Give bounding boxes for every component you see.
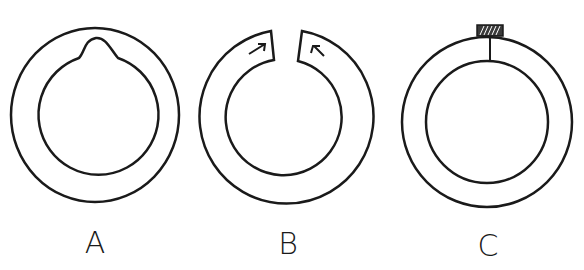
ring-c-inner	[426, 61, 548, 183]
arrow-left-icon	[311, 46, 324, 56]
label-c: C	[478, 228, 499, 263]
arrow-right-icon	[249, 44, 265, 54]
ring-b	[200, 31, 374, 204]
ring-c-outer	[402, 37, 572, 207]
ring-c	[402, 25, 572, 207]
ring-a	[11, 28, 179, 202]
label-b: B	[278, 226, 298, 261]
ring-a-outer	[11, 28, 179, 202]
ring-b-split-ring	[200, 31, 374, 204]
ring-a-inner-with-bump	[39, 38, 159, 175]
label-a: A	[85, 225, 106, 260]
